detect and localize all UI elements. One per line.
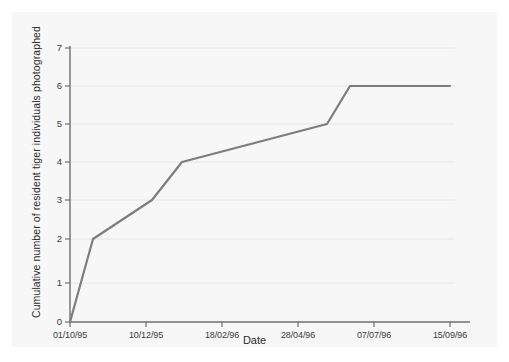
y-axis-title: Cumulative number of resident tiger indi… [30,26,42,318]
y-tick-label-5: 5 [46,118,62,129]
gridlines [70,48,455,283]
y-tick-label-4: 4 [46,156,62,167]
y-tick-label-1: 1 [46,277,62,288]
y-tick-label-2: 2 [46,233,62,244]
y-tick-marks [65,48,70,322]
y-tick-label-6: 6 [46,80,62,91]
x-axis-title: Date [0,334,509,346]
y-tick-label-7: 7 [46,42,62,53]
y-tick-label-3: 3 [46,194,62,205]
x-tick-marks [70,322,450,327]
chart-figure: 7 6 5 4 3 2 1 0 01/10/95 10/12/95 18/02/… [0,0,509,362]
y-tick-label-0: 0 [46,316,62,327]
data-series-line [70,86,450,322]
line-chart-svg [0,0,509,362]
